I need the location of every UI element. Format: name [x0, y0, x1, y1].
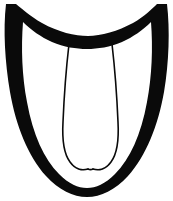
artwork-canvas [0, 0, 173, 201]
line-drawing-illustration [0, 0, 173, 201]
center-seam-join [88, 169, 93, 170]
